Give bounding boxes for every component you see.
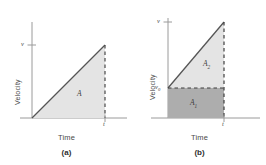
- panel-a-y-tick-label-v: v: [21, 40, 24, 47]
- panel-b-region-label-A2: A2: [203, 59, 210, 70]
- panel-b: Velocity v v0 t A2 A1 Time (b): [133, 0, 266, 165]
- figure-container: Velocity v t A Time (a): [0, 0, 266, 165]
- panel-a-region-label-A: A: [77, 89, 82, 98]
- panel-a: Velocity v t A Time (a): [0, 0, 133, 165]
- panel-b-region-label-A1: A1: [190, 98, 197, 109]
- panel-b-y-tick-subscript: 0: [158, 87, 160, 92]
- panel-b-caption: (b): [133, 148, 266, 157]
- panel-b-region-a2-subscript: 2: [208, 64, 211, 70]
- panel-b-y-tick-label-v: v: [157, 17, 160, 24]
- panel-a-caption: (a): [0, 148, 133, 157]
- panel-a-y-axis-label: Velocity: [14, 79, 21, 105]
- panel-b-x-tick-label-t: t: [222, 120, 224, 127]
- panel-b-y-tick-label-v0: v0: [155, 83, 160, 92]
- panel-a-x-tick-label-t: t: [103, 120, 105, 127]
- panel-a-x-axis-label: Time: [0, 133, 133, 142]
- panel-b-region-a1-subscript: 1: [195, 103, 198, 109]
- panel-b-x-axis-label: Time: [133, 133, 266, 142]
